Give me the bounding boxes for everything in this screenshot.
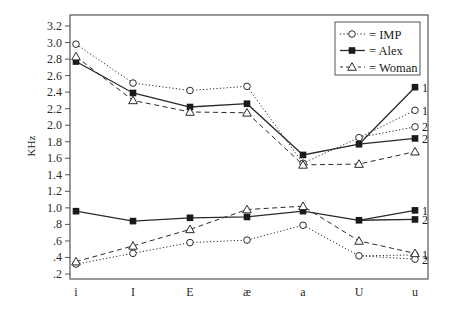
square-marker-icon	[412, 135, 419, 142]
square-marker-icon	[73, 208, 80, 215]
legend: = IMP= Alex= Woman	[335, 22, 420, 75]
y-tick-label: 1.8	[47, 135, 62, 149]
formant-line-chart: 3.23.02.82.62.42.22.01.81.61.41.21.0.8.6…	[0, 0, 451, 313]
y-tick-label: .2	[53, 267, 62, 281]
circle-marker-icon	[130, 80, 137, 87]
circle-marker-icon	[300, 222, 307, 229]
circle-marker-icon	[187, 87, 194, 94]
y-tick-label: 2.2	[47, 102, 62, 116]
branch-line	[359, 219, 415, 220]
branch-label: 2	[422, 132, 428, 146]
circle-marker-icon	[349, 31, 356, 38]
series-lines	[76, 44, 415, 264]
y-tick-label: 2.0	[47, 118, 62, 132]
circle-marker-icon	[356, 253, 363, 260]
triangle-marker-icon	[411, 147, 420, 155]
y-tick-label: 2.4	[47, 85, 62, 99]
triangle-marker-icon	[355, 160, 364, 168]
x-category-label: æ	[243, 285, 251, 299]
square-marker-icon	[412, 216, 419, 223]
branch-line	[359, 110, 415, 137]
circle-marker-icon	[187, 239, 194, 246]
square-marker-icon	[356, 141, 363, 148]
branch-label: 1	[422, 81, 428, 95]
y-tick-label: .8	[53, 217, 62, 231]
y-tick-label: 1.4	[47, 168, 62, 182]
square-marker-icon	[349, 47, 356, 54]
series-line	[76, 225, 359, 264]
triangle-marker-icon	[72, 52, 81, 60]
branch-labels: 12121212	[422, 81, 428, 267]
legend-label: = Woman	[369, 61, 418, 75]
branch-label: 2	[422, 213, 428, 227]
triangle-marker-icon	[129, 96, 138, 104]
branch-line	[359, 210, 415, 220]
y-tick-label: .4	[53, 250, 62, 264]
circle-marker-icon	[130, 250, 137, 257]
branch-line	[359, 256, 415, 259]
branch-label: 1	[422, 104, 428, 118]
y-tick-label: 3.2	[47, 19, 62, 33]
branch-label: 2	[422, 253, 428, 267]
branch-line	[359, 138, 415, 144]
circle-marker-icon	[244, 83, 251, 90]
triangle-marker-icon	[299, 202, 308, 210]
x-category-label: E	[186, 285, 193, 299]
circle-marker-icon	[356, 134, 363, 141]
circle-marker-icon	[73, 41, 80, 48]
branch-line	[359, 87, 415, 144]
x-category-label: u	[412, 285, 418, 299]
y-tick-label: 1.2	[47, 184, 62, 198]
square-marker-icon	[356, 217, 363, 224]
triangle-marker-icon	[355, 237, 364, 245]
x-category-label: I	[131, 285, 135, 299]
triangle-marker-icon	[186, 225, 195, 233]
branch-line	[359, 255, 415, 256]
square-marker-icon	[300, 152, 307, 159]
y-tick-label: 1.6	[47, 151, 62, 165]
y-tick-label: 3.0	[47, 36, 62, 50]
square-marker-icon	[244, 214, 251, 221]
square-marker-icon	[412, 84, 419, 91]
x-category-label: U	[355, 285, 364, 299]
triangle-marker-icon	[243, 109, 252, 117]
series-line	[76, 44, 359, 163]
x-category-label: a	[300, 285, 306, 299]
x-category-label: i	[74, 285, 78, 299]
series-line	[76, 62, 359, 155]
y-tick-label: 2.6	[47, 69, 62, 83]
square-marker-icon	[187, 214, 194, 221]
legend-label: = IMP	[369, 28, 401, 42]
square-marker-icon	[130, 218, 137, 225]
circle-marker-icon	[412, 124, 419, 131]
y-tick-label: .6	[53, 234, 62, 248]
y-axis-title: KHz	[25, 136, 37, 157]
y-tick-label: 1.0	[47, 201, 62, 215]
square-marker-icon	[412, 207, 419, 214]
circle-marker-icon	[412, 107, 419, 114]
x-axis: iIEæaUu	[74, 285, 418, 299]
legend-label: = Alex	[369, 44, 404, 58]
y-axis: 3.23.02.82.62.42.22.01.81.61.41.21.0.8.6…	[47, 19, 70, 281]
square-marker-icon	[244, 100, 251, 107]
y-tick-label: 2.8	[47, 52, 62, 66]
circle-marker-icon	[244, 237, 251, 244]
